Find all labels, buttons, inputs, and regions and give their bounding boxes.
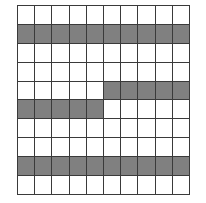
grid-cell[interactable] xyxy=(155,43,172,62)
grid-cell[interactable] xyxy=(69,81,86,100)
grid-cell[interactable] xyxy=(138,43,155,62)
grid-cell[interactable] xyxy=(155,119,172,138)
grid-cell[interactable] xyxy=(18,43,35,62)
grid-cell[interactable] xyxy=(172,119,189,138)
grid-cell[interactable] xyxy=(35,62,52,81)
grid-cell[interactable] xyxy=(69,62,86,81)
grid-cell[interactable] xyxy=(121,62,138,81)
grid-cell[interactable] xyxy=(86,43,103,62)
grid-cell[interactable] xyxy=(103,157,120,176)
grid-cell[interactable] xyxy=(138,119,155,138)
grid-cell[interactable] xyxy=(121,43,138,62)
grid-cell[interactable] xyxy=(172,81,189,100)
grid-cell[interactable] xyxy=(69,119,86,138)
grid-cell[interactable] xyxy=(121,138,138,157)
grid-cell[interactable] xyxy=(155,176,172,195)
grid-cell[interactable] xyxy=(69,43,86,62)
grid-cell[interactable] xyxy=(18,62,35,81)
grid-cell[interactable] xyxy=(103,119,120,138)
grid-cell[interactable] xyxy=(52,24,69,43)
grid-cell[interactable] xyxy=(18,138,35,157)
grid-cell[interactable] xyxy=(155,100,172,119)
grid-cell[interactable] xyxy=(52,6,69,25)
grid-cell[interactable] xyxy=(18,157,35,176)
grid-cell[interactable] xyxy=(35,100,52,119)
grid-cell[interactable] xyxy=(35,24,52,43)
grid-cell[interactable] xyxy=(155,157,172,176)
grid-cell[interactable] xyxy=(121,6,138,25)
grid-cell[interactable] xyxy=(69,24,86,43)
grid-cell[interactable] xyxy=(103,100,120,119)
grid-cell[interactable] xyxy=(86,157,103,176)
grid-cell[interactable] xyxy=(52,81,69,100)
grid-cell[interactable] xyxy=(69,6,86,25)
grid-cell[interactable] xyxy=(86,119,103,138)
grid-cell[interactable] xyxy=(69,138,86,157)
grid-cell[interactable] xyxy=(69,100,86,119)
grid-cell[interactable] xyxy=(35,138,52,157)
grid-cell[interactable] xyxy=(172,6,189,25)
grid-cell[interactable] xyxy=(86,138,103,157)
grid-cell[interactable] xyxy=(121,176,138,195)
grid-cell[interactable] xyxy=(138,157,155,176)
grid-cell[interactable] xyxy=(172,43,189,62)
grid-cell[interactable] xyxy=(138,138,155,157)
grid-cell[interactable] xyxy=(138,100,155,119)
grid-cell[interactable] xyxy=(121,157,138,176)
grid-cell[interactable] xyxy=(86,176,103,195)
grid-cell[interactable] xyxy=(18,119,35,138)
grid-cell[interactable] xyxy=(138,176,155,195)
grid-cell[interactable] xyxy=(155,24,172,43)
grid-cell[interactable] xyxy=(35,157,52,176)
grid-cell[interactable] xyxy=(138,81,155,100)
grid-cell[interactable] xyxy=(155,138,172,157)
grid-cell[interactable] xyxy=(52,100,69,119)
grid-cell[interactable] xyxy=(18,6,35,25)
grid-cell[interactable] xyxy=(103,62,120,81)
grid-cell[interactable] xyxy=(103,24,120,43)
grid-cell[interactable] xyxy=(172,176,189,195)
grid-cell[interactable] xyxy=(172,157,189,176)
grid-cell[interactable] xyxy=(35,6,52,25)
grid-cell[interactable] xyxy=(121,24,138,43)
grid-cell[interactable] xyxy=(138,62,155,81)
grid-cell[interactable] xyxy=(172,24,189,43)
grid-cell[interactable] xyxy=(35,119,52,138)
grid-cell[interactable] xyxy=(69,157,86,176)
grid-cell[interactable] xyxy=(103,81,120,100)
grid-cell[interactable] xyxy=(155,62,172,81)
grid-cell[interactable] xyxy=(103,176,120,195)
grid-cell[interactable] xyxy=(138,24,155,43)
grid-cell[interactable] xyxy=(35,43,52,62)
grid-cell[interactable] xyxy=(172,100,189,119)
grid-cell[interactable] xyxy=(35,81,52,100)
grid-cell[interactable] xyxy=(103,6,120,25)
grid-cell[interactable] xyxy=(172,62,189,81)
grid-cell[interactable] xyxy=(155,81,172,100)
grid-cell[interactable] xyxy=(121,119,138,138)
grid-cell[interactable] xyxy=(52,138,69,157)
grid-cell[interactable] xyxy=(86,6,103,25)
grid-cell[interactable] xyxy=(52,62,69,81)
grid-cell[interactable] xyxy=(103,138,120,157)
grid-cell[interactable] xyxy=(52,176,69,195)
grid-cell[interactable] xyxy=(18,100,35,119)
grid-cell[interactable] xyxy=(86,81,103,100)
grid-cell[interactable] xyxy=(69,176,86,195)
grid-cell[interactable] xyxy=(155,6,172,25)
grid-cell[interactable] xyxy=(121,100,138,119)
grid-cell[interactable] xyxy=(18,81,35,100)
grid-cell[interactable] xyxy=(103,43,120,62)
grid-cell[interactable] xyxy=(172,138,189,157)
grid-cell[interactable] xyxy=(52,43,69,62)
grid-cell[interactable] xyxy=(18,176,35,195)
grid-cell[interactable] xyxy=(121,81,138,100)
grid-cell[interactable] xyxy=(18,24,35,43)
grid-cell[interactable] xyxy=(52,157,69,176)
grid-cell[interactable] xyxy=(86,100,103,119)
grid-cell[interactable] xyxy=(52,119,69,138)
grid-cell[interactable] xyxy=(138,6,155,25)
grid-cell[interactable] xyxy=(86,62,103,81)
grid-cell[interactable] xyxy=(86,24,103,43)
grid-cell[interactable] xyxy=(35,176,52,195)
